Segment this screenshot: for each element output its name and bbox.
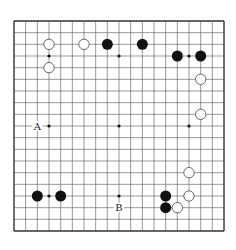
white-stone bbox=[44, 62, 54, 72]
black-stone bbox=[55, 191, 66, 202]
point-label-a: A bbox=[33, 121, 42, 132]
white-stone bbox=[184, 167, 194, 177]
star-point bbox=[117, 54, 120, 57]
white-stone bbox=[79, 39, 89, 49]
star-point bbox=[117, 124, 120, 127]
star-point bbox=[117, 194, 120, 197]
star-point bbox=[47, 194, 50, 197]
white-stone bbox=[172, 202, 182, 212]
black-stone bbox=[160, 191, 171, 202]
board-labels: AB bbox=[32, 121, 124, 214]
white-stone bbox=[44, 39, 54, 49]
black-stone bbox=[137, 39, 148, 50]
go-board: AB bbox=[0, 0, 236, 250]
black-stone bbox=[172, 51, 183, 62]
black-stone bbox=[102, 39, 113, 50]
white-stone bbox=[195, 74, 205, 84]
white-stone bbox=[195, 109, 205, 119]
star-point bbox=[187, 54, 190, 57]
star-point bbox=[47, 54, 50, 57]
star-point bbox=[187, 124, 190, 127]
black-stone bbox=[32, 191, 43, 202]
black-stone bbox=[195, 51, 206, 62]
white-stone bbox=[184, 191, 194, 201]
point-label-b: B bbox=[115, 202, 122, 213]
star-point bbox=[47, 124, 50, 127]
black-stone bbox=[160, 202, 171, 213]
